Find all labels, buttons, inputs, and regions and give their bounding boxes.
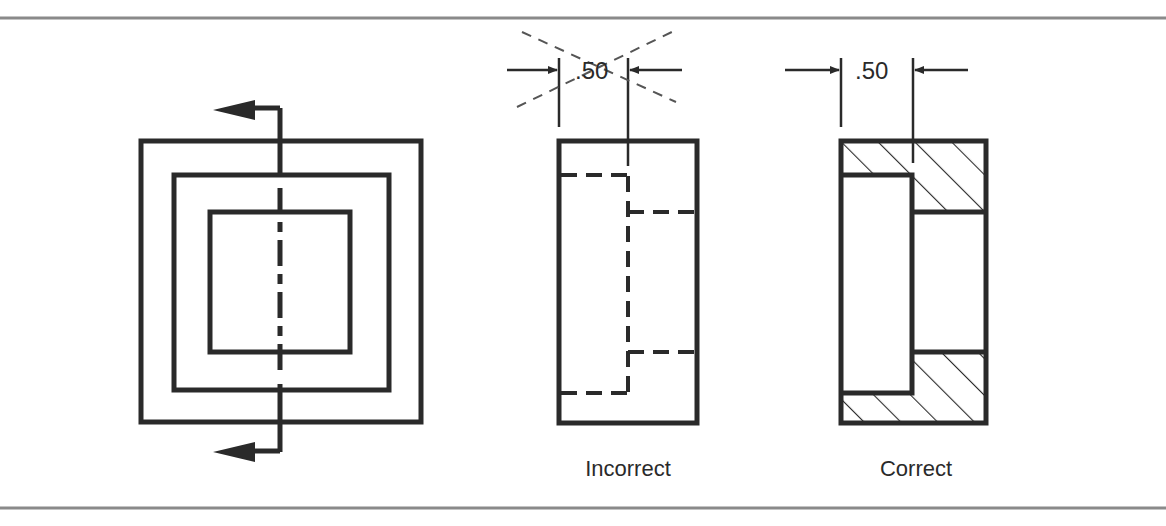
correct-label: Correct — [880, 456, 952, 482]
incorrect-view — [507, 29, 697, 423]
incorrect-dimension: .50 — [575, 57, 608, 85]
cavity-right — [912, 212, 986, 352]
front-view — [141, 108, 421, 452]
cavity-left — [841, 175, 912, 393]
view-arrow-top-icon — [213, 100, 255, 120]
incorrect-label: Incorrect — [585, 456, 671, 482]
correct-dimension: .50 — [855, 57, 888, 85]
correct-view — [785, 58, 986, 423]
view-arrow-bottom-icon — [213, 442, 255, 462]
